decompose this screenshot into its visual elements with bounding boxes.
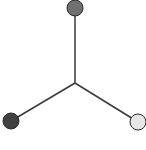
edge-bottom-right: [75, 83, 138, 122]
edges: [11, 8, 138, 122]
node-bottom-right: [130, 114, 146, 130]
node-top: [67, 0, 83, 16]
star-diagram: [0, 0, 146, 150]
node-bottom-left: [3, 113, 19, 129]
edge-bottom-left: [11, 83, 75, 121]
